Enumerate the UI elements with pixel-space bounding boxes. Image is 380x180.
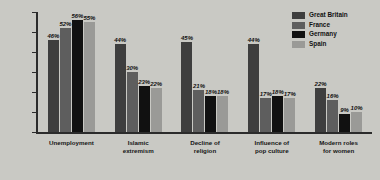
y-axis-tick-mark [32,132,37,133]
bar-group: 18% [272,12,283,132]
bar[interactable]: 23% [139,86,150,132]
legend-label: Germany [309,31,337,37]
bar-group: 17% [260,12,271,132]
category-label-line: extremism [106,147,171,155]
bar-group: 21% [193,12,204,132]
bar-value-label: 17% [260,91,272,98]
bar[interactable]: 22% [151,88,162,132]
category-label-line: Islamic [106,139,171,147]
legend-swatch-icon [292,31,305,38]
bar-cluster: 45%21%18%18% [172,12,239,132]
bar-value-label: 30% [126,65,138,72]
bar-group: 55% [84,12,95,132]
category-label-line: Decline of [173,139,238,147]
bar[interactable]: 55% [84,22,95,132]
legend-swatch-icon [292,12,305,19]
bar-value-label: 21% [193,83,205,90]
x-axis-category-label: Unemployment [38,139,105,156]
bar-group: 45% [181,12,192,132]
chart-legend: Great BritainFranceGermanySpain [292,12,348,48]
bar-value-label: 55% [83,15,95,22]
bar-value-label: 18% [205,89,217,96]
x-axis-category-label: Influence ofpop culture [238,139,305,156]
x-axis-category-labels: UnemploymentIslamicextremismDecline ofre… [38,139,372,156]
legend-label: Spain [309,41,326,47]
bar-value-label: 22% [315,81,327,88]
bar[interactable]: 17% [260,98,271,132]
bar-value-label: 45% [181,35,193,42]
bar-group: 46% [48,12,59,132]
bar[interactable]: 44% [115,44,126,132]
legend-item[interactable]: France [292,22,348,29]
bar-chart: 60%50403020100 46%52%56%55%44%30%23%22%4… [0,0,380,180]
legend-label: Great Britain [309,12,348,18]
bar-value-label: 44% [248,37,260,44]
x-axis-category-label: Modern rolesfor women [305,139,372,156]
bar-group: 56% [72,12,83,132]
bar-group: 10% [351,12,362,132]
bar[interactable]: 30% [127,72,138,132]
bar[interactable]: 17% [284,98,295,132]
bar-value-label: 18% [217,89,229,96]
category-label-line: pop culture [239,147,304,155]
category-label-line: Unemployment [39,139,104,147]
bar-group: 23% [139,12,150,132]
bar-value-label: 56% [71,13,83,20]
bar-value-label: 16% [327,93,339,100]
bar[interactable]: 10% [351,112,362,132]
legend-item[interactable]: Great Britain [292,12,348,19]
x-axis-line [36,132,372,134]
y-axis-tick-mark [32,112,37,113]
bar[interactable]: 45% [181,42,192,132]
legend-swatch-icon [292,22,305,29]
legend-swatch-icon [292,41,305,48]
bar-value-label: 22% [150,81,162,88]
bar[interactable]: 21% [193,90,204,132]
bar-value-label: 52% [59,21,71,28]
bar-value-label: 46% [47,33,59,40]
y-axis-tick-mark [32,32,37,33]
bar-value-label: 23% [138,79,150,86]
bar[interactable]: 22% [315,88,326,132]
bar-group: 44% [115,12,126,132]
bar[interactable]: 9% [339,114,350,132]
bar-group: 52% [60,12,71,132]
bar-group: 18% [217,12,228,132]
category-label-line: Influence of [239,139,304,147]
bar-group: 18% [205,12,216,132]
bar-cluster: 44%30%23%22% [105,12,172,132]
bar[interactable]: 18% [217,96,228,132]
bar-value-label: 18% [272,89,284,96]
bar[interactable]: 56% [72,20,83,132]
y-axis-tick-mark [32,12,37,13]
bar[interactable]: 18% [205,96,216,132]
bar-cluster: 46%52%56%55% [38,12,105,132]
legend-label: France [309,22,330,28]
bar[interactable]: 16% [327,100,338,132]
category-label-line: for women [306,147,371,155]
bar[interactable]: 52% [60,28,71,132]
y-axis-tick-mark [32,92,37,93]
bar[interactable]: 44% [248,44,259,132]
bar[interactable]: 46% [48,40,59,132]
x-axis-category-label: Islamicextremism [105,139,172,156]
bar-value-label: 10% [351,105,363,112]
category-label-line: Modern roles [306,139,371,147]
bar-value-label: 9% [340,107,349,114]
bar[interactable]: 18% [272,96,283,132]
bar-value-label: 44% [114,37,126,44]
bar-value-label: 17% [284,91,296,98]
bar-group: 44% [248,12,259,132]
x-axis-category-label: Decline ofreligion [172,139,239,156]
legend-item[interactable]: Spain [292,41,348,48]
bar-group: 30% [127,12,138,132]
bar-group: 22% [151,12,162,132]
y-axis-tick-mark [32,72,37,73]
category-label-line: religion [173,147,238,155]
legend-item[interactable]: Germany [292,31,348,38]
y-axis-tick-mark [32,52,37,53]
